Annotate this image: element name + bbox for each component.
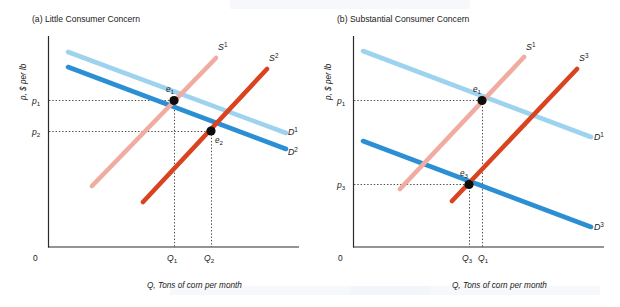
panel-b-equilibrium-label-e3: e3: [460, 169, 469, 179]
panel-a-equilibrium-label-e1: e1: [166, 85, 175, 95]
panel-b-equilibrium-dot-e1: [477, 96, 486, 105]
panel-b-curve-label-D3: D3: [594, 221, 604, 232]
panel-b-curve-label-S3: S3: [579, 52, 589, 63]
panel-b-y-tick-p1: p1: [336, 96, 346, 107]
panel-a-equilibrium-dot-e1: [169, 96, 178, 105]
panel-b-y-axis-label: p, $ per lb: [324, 63, 333, 101]
panel-b-title: (b) Substantial Consumer Concern: [337, 14, 470, 24]
panel-b: (b) Substantial Consumer Concern p, $ pe…: [324, 14, 604, 290]
panel-b-curve-label-D1: D1: [594, 131, 604, 142]
panel-a-x-tick-Q2: Q2: [204, 253, 215, 264]
panel-a-curve-S1: [92, 58, 216, 186]
panel-a-y-tick-p1: p1: [31, 96, 41, 107]
supply-demand-figure: (a) Little Consumer Concern p, $ per lb …: [0, 0, 620, 307]
panel-b-curve-label-S1: S1: [526, 41, 536, 52]
panel-a-curve-label-D2: D2: [288, 146, 298, 157]
panel-b-x-tick-Q1: Q1: [478, 253, 489, 264]
panel-a-curve-label-S2: S2: [269, 52, 279, 63]
panel-a-y-tick-p2: p2: [31, 127, 41, 138]
panel-b-origin-label: 0: [338, 253, 343, 263]
panel-a-curve-D1: [68, 52, 286, 133]
panel-a-x-tick-Q1: Q1: [167, 253, 178, 264]
panel-a-equilibrium-dot-e2: [206, 126, 215, 135]
panel-b-equilibrium-dot-e3: [464, 180, 473, 189]
scan-artifact-top: [230, 0, 470, 9]
panel-a-curve-label-S1: S1: [218, 41, 228, 52]
panel-a-curve-label-D1: D1: [288, 126, 298, 137]
figure-container: (a) Little Consumer Concern p, $ per lb …: [0, 0, 620, 307]
panel-a: (a) Little Consumer Concern p, $ per lb …: [19, 14, 299, 290]
panel-b-x-tick-Q3: Q3: [462, 253, 473, 264]
panel-a-equilibrium-label-e2: e2: [215, 136, 224, 146]
panel-a-y-axis-label: p, $ per lb: [19, 63, 28, 101]
panel-b-x-axis-label: Q, Tons of corn per month: [452, 281, 547, 290]
panel-a-curve-D2: [68, 67, 286, 149]
panel-b-equilibrium-label-e1: e1: [473, 85, 482, 95]
panel-b-y-tick-p3: p3: [336, 180, 346, 191]
panel-a-x-axis-label: Q, Tons of corn per month: [147, 281, 242, 290]
panel-a-origin-label: 0: [33, 253, 38, 263]
panel-a-title: (a) Little Consumer Concern: [32, 14, 140, 24]
